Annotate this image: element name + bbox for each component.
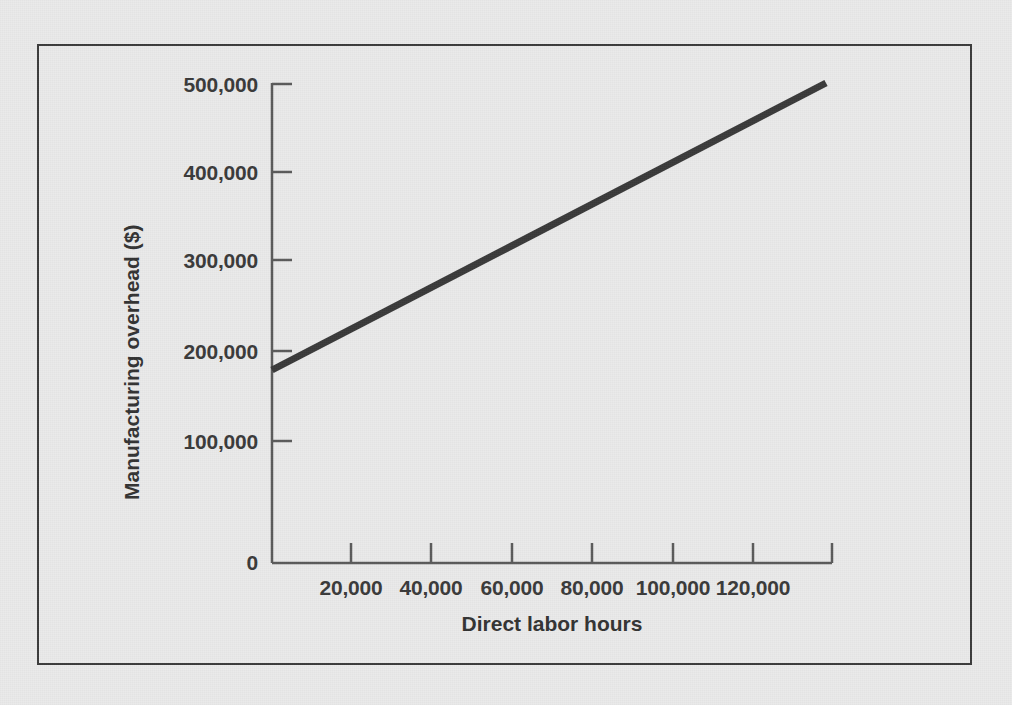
y-axis-title: Manufacturing overhead ($) [120,225,144,500]
y-tick-label-500000: 500,000 [78,73,258,97]
y-tick-label-300000: 300,000 [78,249,258,273]
x-tick-label-120000: 120,000 [693,576,813,600]
y-tick-label-200000: 200,000 [78,340,258,364]
y-tick-label-100000: 100,000 [78,430,258,454]
y-tick-label-0: 0 [78,551,258,575]
y-tick-label-400000: 400,000 [78,161,258,185]
overhead-cost-line [272,83,826,370]
x-axis-title: Direct labor hours [272,612,832,636]
